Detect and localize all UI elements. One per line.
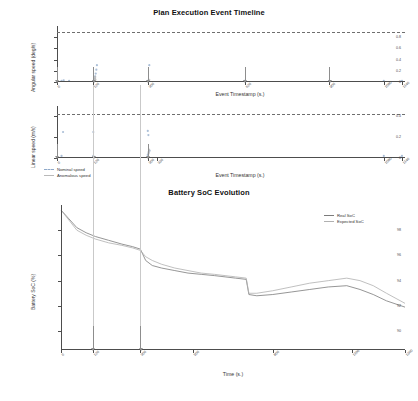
y-tick-label: 0.4 <box>396 58 401 62</box>
axis-label-time: Time (s.) <box>178 371 288 377</box>
event-marker-arrow <box>57 144 58 156</box>
data-point <box>62 131 64 133</box>
event-guide-line <box>140 85 141 350</box>
event-guide-line <box>93 85 94 350</box>
x-tick-label: 120 <box>93 158 100 165</box>
event-marker-arrow <box>148 144 149 156</box>
y-tick <box>58 331 61 332</box>
y-tick-label: 92 <box>397 304 401 308</box>
event-marker-arrow <box>57 67 58 80</box>
data-point <box>94 76 96 78</box>
figure-canvas: Plan Execution Event Timeline Angular sp… <box>0 0 418 401</box>
legend-swatch <box>44 175 54 176</box>
legend-speed: Nominal speedAnomalous speed <box>44 166 91 178</box>
y-axis-line-soc <box>61 205 62 350</box>
plot-area-angular-speed: 00.20.40.60.8012030062090010801140 <box>57 26 405 82</box>
x-tick-label: 1300 <box>405 349 414 357</box>
x-tick-label: 900 <box>329 82 336 89</box>
y-tick-label: 0 <box>399 80 401 84</box>
page-title-bottom: Battery SoC Evolution <box>109 188 309 197</box>
data-point <box>96 64 98 66</box>
plot-area-battery-soc: 9092949698012030050080011001300 <box>61 205 405 350</box>
y-tick <box>54 116 57 117</box>
axis-label-event-timestamp-mid: Event Timestamp (s.) <box>185 172 295 178</box>
legend-swatch <box>44 169 54 170</box>
data-point <box>147 130 149 132</box>
x-tick-label: 1140 <box>402 157 410 165</box>
event-marker-arrow <box>148 67 149 80</box>
x-tick-label: 330 <box>157 158 164 165</box>
legend-label: Expected SoC <box>337 219 364 224</box>
legend-swatch <box>324 215 334 216</box>
plot-area-linear-speed: 00.20.4012030033010801140 <box>57 106 405 158</box>
x-tick-label: 300 <box>148 158 155 165</box>
event-marker-arrow <box>93 67 94 80</box>
axis-label-battery-soc: Battery SoC (%) <box>30 274 36 310</box>
legend-item: Anomalous speed <box>44 172 91 178</box>
y-tick <box>58 230 61 231</box>
y-tick-label: 90 <box>397 329 401 333</box>
x-tick-label: 1100 <box>352 349 360 357</box>
x-tick-label: 120 <box>93 82 100 89</box>
y-tick-label: 0.2 <box>396 69 401 73</box>
data-point <box>148 64 150 66</box>
event-marker-arrow <box>140 326 141 348</box>
page-title-top: Plan Execution Event Timeline <box>109 8 309 17</box>
x-tick-label: 0 <box>57 161 61 165</box>
data-point <box>147 134 149 136</box>
line-layer-soc <box>61 205 405 350</box>
threshold-line-top <box>57 32 405 33</box>
y-tick <box>54 48 57 49</box>
legend-swatch <box>324 221 334 222</box>
event-marker-arrow <box>245 67 246 80</box>
x-axis-line-top <box>57 81 405 82</box>
y-tick-label: 98 <box>397 228 401 232</box>
y-tick-label: 94 <box>397 279 401 283</box>
threshold-line-mid <box>57 114 405 115</box>
x-axis-line-mid <box>57 157 405 158</box>
y-tick <box>54 37 57 38</box>
y-tick <box>54 60 57 61</box>
legend-label: Real SoC <box>337 213 355 218</box>
x-tick-label: 1140 <box>402 81 410 89</box>
y-tick-label: 0.2 <box>396 135 401 139</box>
soc-line <box>61 210 405 303</box>
data-point <box>95 73 97 75</box>
legend-label: Anomalous speed <box>57 173 91 178</box>
legend-label: Nominal speed <box>57 167 85 172</box>
x-tick-label: 620 <box>245 82 252 89</box>
y-tick-label: 0.4 <box>396 114 401 118</box>
y-tick <box>58 281 61 282</box>
x-axis-line-soc <box>61 349 405 350</box>
x-tick-label: 0 <box>61 353 65 357</box>
x-tick-label: 300 <box>148 82 155 89</box>
event-marker-arrow <box>329 67 330 80</box>
y-tick-label: 0.8 <box>396 35 401 39</box>
x-tick-label: 120 <box>93 350 100 357</box>
event-marker-arrow <box>93 326 94 348</box>
y-tick-label: 0 <box>399 156 401 160</box>
y-tick <box>58 306 61 307</box>
y-tick-label: 0.6 <box>396 46 401 50</box>
legend-item: Expected SoC <box>324 218 364 224</box>
legend-soc: Real SoCExpected SoC <box>324 212 364 224</box>
axis-label-linear-speed: Linear speed (m/s) <box>30 126 36 168</box>
x-tick-label: 300 <box>140 350 147 357</box>
axis-label-angular-speed: Angular speed (deg/s) <box>30 43 36 92</box>
y-tick-label: 96 <box>397 253 401 257</box>
x-tick-label: 500 <box>193 350 200 357</box>
x-tick-label: 0 <box>57 85 61 89</box>
data-point <box>95 69 97 71</box>
axis-label-event-timestamp-top: Event Timestamp (s.) <box>185 91 295 97</box>
x-tick-label: 800 <box>273 350 280 357</box>
scatter-layer-top <box>57 26 405 82</box>
y-tick <box>58 255 61 256</box>
soc-line <box>61 210 405 307</box>
y-tick <box>54 137 57 138</box>
